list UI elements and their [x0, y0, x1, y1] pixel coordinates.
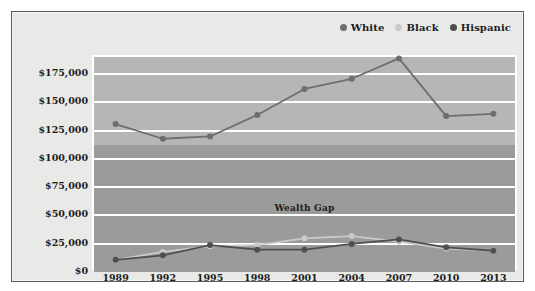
data-point-white-2001[interactable] — [302, 86, 308, 92]
chart-screenshot: WhiteBlackHispanic $0$25,000$50,000$75,0… — [0, 0, 535, 291]
chart-card: WhiteBlackHispanic $0$25,000$50,000$75,0… — [11, 11, 524, 282]
x-axis-tick-label: 2004 — [338, 272, 364, 283]
y-axis-tick-label: $100,000 — [12, 151, 88, 162]
x-axis-tick-label: 2001 — [291, 272, 317, 283]
y-axis-tick-label: $175,000 — [12, 66, 88, 77]
data-point-white-2004[interactable] — [349, 76, 355, 82]
x-axis: 198919921995199820012004200720102013 — [92, 272, 517, 288]
data-point-white-2010[interactable] — [443, 113, 449, 119]
data-point-hispanic-2013[interactable] — [490, 248, 496, 254]
data-point-white-2013[interactable] — [490, 111, 496, 117]
x-axis-tick-label: 2013 — [480, 272, 506, 283]
legend-label: Black — [406, 22, 438, 33]
data-point-white-1989[interactable] — [113, 121, 119, 127]
legend-swatch-icon — [340, 24, 347, 31]
data-point-white-2007[interactable] — [396, 55, 402, 61]
y-axis-tick-label: $125,000 — [12, 123, 88, 134]
legend-swatch-icon — [395, 24, 402, 31]
data-point-hispanic-2007[interactable] — [396, 236, 402, 242]
y-axis-tick-label: $50,000 — [12, 208, 88, 219]
y-axis-tick-label: $25,000 — [12, 236, 88, 247]
y-axis: $0$25,000$50,000$75,000$100,000$125,000$… — [12, 55, 88, 270]
data-point-white-1998[interactable] — [254, 112, 260, 118]
x-axis-tick-label: 1992 — [150, 272, 176, 283]
y-axis-tick-label: $75,000 — [12, 180, 88, 191]
data-point-hispanic-1998[interactable] — [254, 247, 260, 253]
cut-off-caption — [0, 0, 535, 9]
data-point-hispanic-1989[interactable] — [113, 257, 119, 263]
data-point-white-1992[interactable] — [160, 136, 166, 142]
series-line-white — [116, 58, 494, 138]
x-axis-tick-label: 1989 — [102, 272, 128, 283]
data-point-hispanic-2010[interactable] — [443, 244, 449, 250]
legend-swatch-icon — [450, 24, 457, 31]
chart-legend: WhiteBlackHispanic — [340, 22, 511, 33]
data-point-hispanic-2004[interactable] — [349, 241, 355, 247]
y-axis-tick-label: $0 — [12, 265, 88, 276]
legend-label: Hispanic — [461, 22, 511, 33]
x-axis-tick-label: 2007 — [386, 272, 412, 283]
data-point-black-2004[interactable] — [349, 233, 355, 239]
series-lines — [92, 55, 517, 270]
legend-item-hispanic[interactable]: Hispanic — [450, 22, 511, 33]
data-point-hispanic-2001[interactable] — [302, 247, 308, 253]
y-axis-tick-label: $150,000 — [12, 95, 88, 106]
x-axis-tick-label: 2010 — [433, 272, 459, 283]
data-point-hispanic-1992[interactable] — [160, 252, 166, 258]
x-axis-tick-label: 1995 — [197, 272, 223, 283]
x-axis-tick-label: 1998 — [244, 272, 270, 283]
legend-label: White — [351, 22, 385, 33]
data-point-black-2001[interactable] — [302, 235, 308, 241]
legend-item-white[interactable]: White — [340, 22, 385, 33]
data-point-hispanic-1995[interactable] — [207, 242, 213, 248]
data-point-white-1995[interactable] — [207, 133, 213, 139]
legend-item-black[interactable]: Black — [395, 22, 438, 33]
